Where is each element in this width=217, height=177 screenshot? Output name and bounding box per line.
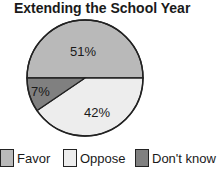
legend-swatch-dont-know [135, 149, 149, 167]
legend-item-oppose: Oppose [63, 147, 126, 169]
legend: Favor Oppose Don't know [0, 147, 217, 169]
legend-item-favor: Favor [0, 147, 50, 169]
legend-swatch-oppose [63, 149, 77, 167]
legend-label-favor: Favor [17, 151, 50, 166]
legend-item-dont-know: Don't know [135, 147, 216, 169]
legend-label-dont-know: Don't know [152, 151, 216, 166]
label-favor: 51% [70, 44, 96, 59]
label-dont-know: 7% [31, 84, 50, 99]
legend-label-oppose: Oppose [80, 151, 126, 166]
label-oppose: 42% [84, 105, 110, 120]
legend-swatch-favor [0, 149, 14, 167]
